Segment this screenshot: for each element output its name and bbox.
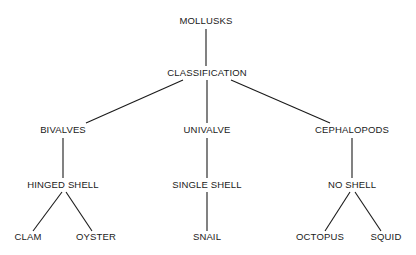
node-label-hinged-shell: HINGED SHELL: [27, 179, 99, 190]
edge-hinged-clam: [33, 192, 62, 231]
node-label-classification: CLASSIFICATION: [167, 67, 247, 78]
node-label-octopus: OCTOPUS: [296, 231, 344, 242]
node-label-oyster: OYSTER: [76, 231, 116, 242]
node-label-single-shell: SINGLE SHELL: [172, 179, 241, 190]
edge-classification-bivalves: [86, 80, 183, 123]
node-label-snail: SNAIL: [193, 231, 221, 242]
edge-classification-cephalopods: [231, 80, 330, 123]
node-label-bivalves: BIVALVES: [40, 124, 86, 135]
nodes-group: MOLLUSKSCLASSIFICATIONBIVALVESUNIVALVECE…: [15, 15, 402, 242]
edge-hinged-oyster: [66, 192, 92, 231]
mollusks-classification-diagram: MOLLUSKSCLASSIFICATIONBIVALVESUNIVALVECE…: [0, 0, 416, 255]
node-label-no-shell: NO SHELL: [328, 179, 376, 190]
edge-noshell-squid: [355, 192, 381, 231]
edge-noshell-octopus: [325, 192, 350, 231]
node-label-mollusks: MOLLUSKS: [180, 15, 233, 26]
node-label-univalve: UNIVALVE: [184, 124, 231, 135]
tree-diagram-canvas: MOLLUSKSCLASSIFICATIONBIVALVESUNIVALVECE…: [0, 0, 416, 255]
node-label-cephalopods: CEPHALOPODS: [315, 124, 389, 135]
node-label-clam: CLAM: [15, 231, 42, 242]
node-label-squid: SQUID: [371, 231, 402, 242]
